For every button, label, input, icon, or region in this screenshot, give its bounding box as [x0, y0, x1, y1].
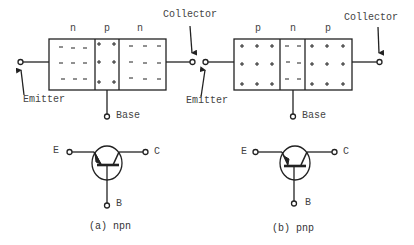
pnp-collector-arrow [378, 27, 379, 53]
npn-structure [18, 26, 195, 119]
npn-symbol-c-terminal [143, 150, 148, 155]
npn-symbol-e-terminal [67, 150, 72, 155]
npn-caption: (a) npn [89, 222, 131, 232]
pnp-charges [240, 44, 345, 86]
pnp-collector-label: Collector [344, 13, 398, 23]
npn-symbol [67, 146, 148, 208]
npn-region-label-1: n [70, 24, 76, 34]
pnp-emitter-terminal [203, 60, 208, 65]
pnp-symbol [253, 146, 337, 206]
npn-block [49, 39, 166, 90]
pnp-block [234, 39, 352, 90]
npn-symbol-collector-line [113, 152, 119, 165]
npn-emitter-arrow [21, 70, 24, 95]
pnp-base-terminal [291, 114, 296, 119]
npn-symbol-e-label: E [53, 146, 59, 156]
pnp-emitter-arrow [201, 70, 205, 97]
pnp-symbol-circle [280, 146, 310, 180]
npn-collector-label: Collector [163, 10, 217, 20]
pnp-symbol-b-label: B [305, 198, 311, 208]
pnp-emitter-label: Emitter [186, 96, 228, 106]
npn-symbol-c-label: C [154, 147, 160, 157]
npn-symbol-emitter-arrow-icon [95, 153, 101, 164]
pnp-region-label-2: n [290, 24, 296, 34]
pnp-symbol-b-terminal [292, 201, 297, 206]
npn-symbol-b-label: B [116, 199, 122, 209]
pnp-symbol-c-terminal [332, 150, 337, 155]
pnp-caption: (b) pnp [272, 224, 314, 234]
transistor-diagram [0, 0, 414, 245]
npn-collector-arrow [190, 26, 192, 53]
npn-base-label: Base [116, 111, 140, 121]
pnp-symbol-collector-line [301, 152, 307, 165]
pnp-structure [201, 27, 382, 119]
npn-collector-terminal [190, 60, 195, 65]
npn-region-label-2: p [104, 24, 110, 34]
npn-emitter-terminal [18, 60, 23, 65]
pnp-collector-terminal [377, 60, 382, 65]
npn-symbol-b-terminal [105, 203, 110, 208]
pnp-symbol-e-label: E [241, 147, 247, 157]
npn-charges [59, 42, 161, 84]
pnp-symbol-e-terminal [253, 150, 258, 155]
pnp-region-label-3: p [325, 24, 331, 34]
npn-region-label-3: n [137, 24, 143, 34]
npn-base-terminal [105, 114, 110, 119]
npn-emitter-label: Emitter [23, 95, 65, 105]
pnp-base-label: Base [302, 111, 326, 121]
pnp-region-label-1: p [255, 24, 261, 34]
pnp-symbol-c-label: C [343, 147, 349, 157]
